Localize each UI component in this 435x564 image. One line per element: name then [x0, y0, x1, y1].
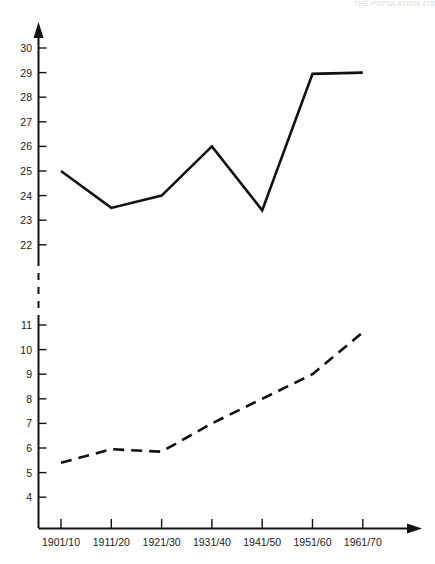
y-tick-label-upper-24: 24: [12, 190, 32, 202]
x-axis-ticks: [61, 519, 363, 529]
y-axis-lower-ticks: [39, 325, 47, 497]
y-tick-label-upper-25: 25: [12, 165, 32, 177]
y-tick-label-lower-7: 7: [12, 417, 32, 429]
y-tick-label-lower-5: 5: [12, 467, 32, 479]
y-tick-label-lower-10: 10: [12, 344, 32, 356]
y-tick-label-upper-22: 22: [12, 239, 32, 251]
y-tick-label-lower-8: 8: [12, 393, 32, 405]
y-tick-label-lower-9: 9: [12, 368, 32, 380]
line-chart-svg: [0, 0, 435, 564]
y-tick-label-upper-23: 23: [12, 214, 32, 226]
y-tick-label-upper-28: 28: [12, 91, 32, 103]
series-line-lower: [61, 332, 363, 462]
x-axis-arrowhead: [407, 524, 422, 534]
y-tick-label-lower-11: 11: [12, 319, 32, 331]
y-tick-label-lower-6: 6: [12, 442, 32, 454]
x-tick-label-0: 1901/10: [42, 536, 80, 548]
y-tick-label-upper-27: 27: [12, 116, 32, 128]
chart-page: THE POPULATION 275 222324252627282930 45…: [0, 0, 435, 564]
y-axis-upper-ticks: [39, 48, 47, 245]
x-tick-label-2: 1921/30: [143, 536, 181, 548]
series-line-upper: [61, 73, 363, 211]
y-tick-label-upper-29: 29: [12, 67, 32, 79]
x-tick-label-3: 1931/40: [193, 536, 231, 548]
x-tick-label-1: 1911/20: [93, 536, 130, 548]
y-axis-arrowhead: [34, 22, 44, 38]
y-tick-label-upper-26: 26: [12, 140, 32, 152]
x-tick-label-4: 1941/50: [243, 536, 281, 548]
y-tick-label-upper-30: 30: [12, 42, 32, 54]
x-tick-label-5: 1951/60: [294, 536, 332, 548]
x-tick-label-6: 1961/70: [344, 536, 382, 548]
y-tick-label-lower-4: 4: [12, 491, 32, 503]
